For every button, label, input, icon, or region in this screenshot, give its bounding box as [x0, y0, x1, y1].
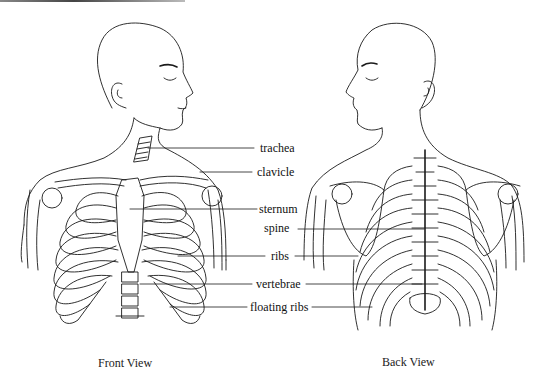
- label-sternum: sternum: [259, 203, 298, 215]
- label-clavicle: clavicle: [257, 166, 294, 178]
- front-eye: [164, 78, 176, 80]
- caption-front-view: Front View: [98, 357, 152, 369]
- front-clavicle-right: [140, 176, 208, 188]
- front-figure: [21, 23, 226, 323]
- label-ribs: ribs: [271, 250, 289, 262]
- front-ribs-left: [54, 193, 118, 324]
- trachea: [134, 136, 152, 162]
- back-ribs-left: [356, 166, 412, 326]
- scapula-right: [466, 182, 520, 256]
- back-spine: [410, 150, 441, 314]
- label-spine: spine: [264, 222, 289, 234]
- back-ribs-right: [438, 166, 494, 326]
- front-clavicle-left: [55, 178, 126, 188]
- front-ribs-right: [142, 192, 206, 323]
- front-mouth: [178, 108, 186, 109]
- back-brow: [362, 63, 377, 66]
- caption-back-view: Back View: [382, 356, 435, 368]
- scapula-left: [330, 182, 384, 256]
- anatomy-illustration: [0, 0, 550, 386]
- front-brow: [160, 65, 177, 67]
- front-vertebrae: [116, 272, 144, 318]
- label-vertebrae: vertebrae: [256, 278, 301, 290]
- back-head-outline: [346, 23, 435, 130]
- sternum: [116, 178, 144, 272]
- label-floating-ribs: floating ribs: [250, 301, 308, 313]
- label-trachea: trachea: [260, 142, 295, 154]
- front-ear: [111, 83, 126, 108]
- back-eye: [366, 78, 378, 80]
- front-head-outline: [97, 23, 193, 130]
